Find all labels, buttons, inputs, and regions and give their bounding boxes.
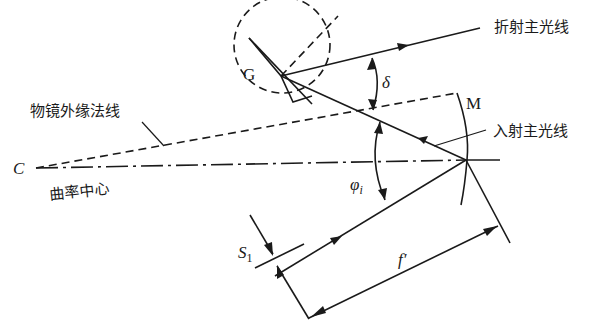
label-c: C [13,159,25,178]
label-m: M [466,94,481,113]
phi-arc-arrow-bottom [378,188,387,200]
incident-label-leader [434,130,486,146]
optical-diagram: 折射主光线 入射主光线 物镜外缘法线 曲率中心 C G M δ φi S1 f′ [0,0,608,329]
label-objective-edge-normal: 物镜外缘法线 [30,102,120,120]
label-delta: δ [382,73,391,92]
label-incident-chief-ray: 入射主光线 [493,122,568,140]
label-fprime: f′ [398,250,407,269]
fprime-arrow-right [483,226,497,236]
slit-arrow-top [264,242,273,256]
normal-label-leader [142,122,164,146]
refracted-chief-ray [281,28,480,76]
slit-line [255,244,304,268]
label-refracted-chief-ray: 折射主光线 [494,18,569,36]
phi-arc-arrow-top [374,122,383,134]
refracted-ray-arrow [397,43,409,51]
label-g: G [243,65,255,84]
label-center-of-curvature: 曲率中心 [49,180,111,204]
incoming-ray-arrow [330,236,342,245]
incoming-ray [275,160,466,276]
label-phi: φi [350,175,363,197]
optical-axis [36,160,466,168]
fprime-arrow-left [311,306,326,317]
label-s1: S1 [238,243,253,265]
incident-chief-ray-reflected [281,76,466,160]
